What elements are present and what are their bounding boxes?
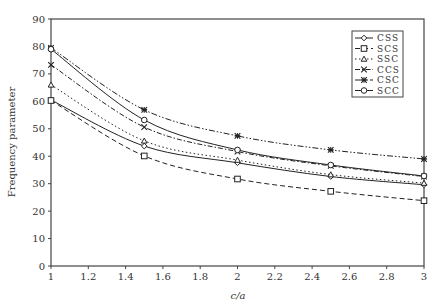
data-point-ssc xyxy=(48,82,54,87)
data-point-scs xyxy=(48,98,54,104)
data-point-ssc xyxy=(421,180,427,185)
series-css xyxy=(48,97,427,187)
x-tick-label: 1.4 xyxy=(118,271,134,282)
data-point-scc xyxy=(421,173,427,179)
legend-marker-csc xyxy=(361,77,367,83)
y-tick-label: 10 xyxy=(32,233,45,244)
x-axis-title: c/a xyxy=(231,290,246,301)
data-point-scs xyxy=(235,176,241,182)
x-tick-label: 2 xyxy=(234,271,240,282)
y-tick-label: 40 xyxy=(32,151,45,162)
legend-label-ssc: SSC xyxy=(377,54,399,64)
y-tick-label: 90 xyxy=(32,14,45,25)
data-point-ssc xyxy=(328,172,334,177)
y-tick-label: 50 xyxy=(32,123,45,134)
x-tick-label: 1 xyxy=(48,271,54,282)
data-point-scc xyxy=(48,46,54,52)
x-tick-label: 1.2 xyxy=(80,271,96,282)
legend: CSSSCSSSCCCSCSCSCC xyxy=(352,31,403,97)
chart: 11.21.41.61.822.22.42.62.830102030405060… xyxy=(0,0,447,305)
x-tick-label: 1.6 xyxy=(155,271,171,282)
data-point-scc xyxy=(235,147,241,153)
data-point-ccs xyxy=(141,124,147,130)
x-tick-label: 2.8 xyxy=(379,271,395,282)
x-tick-label: 3 xyxy=(421,271,427,282)
data-point-scc xyxy=(141,117,147,123)
x-tick-label: 1.8 xyxy=(192,271,208,282)
x-tick-label: 2.4 xyxy=(304,271,320,282)
y-tick-label: 0 xyxy=(39,261,45,272)
legend-label-csc: CSC xyxy=(377,75,400,85)
data-point-scs xyxy=(141,153,147,159)
data-point-css xyxy=(141,143,147,149)
data-point-scc xyxy=(328,162,334,168)
data-point-csc xyxy=(235,133,241,139)
y-tick-label: 70 xyxy=(32,68,45,79)
data-point-ssc xyxy=(141,138,147,143)
legend-label-scs: SCS xyxy=(377,44,399,54)
y-tick-label: 20 xyxy=(32,206,45,217)
legend-marker-scc xyxy=(361,88,367,94)
x-tick-label: 2.2 xyxy=(267,271,283,282)
legend-marker-scs xyxy=(361,46,367,52)
legend-label-scc: SCC xyxy=(377,86,400,96)
data-point-csc xyxy=(141,107,147,113)
data-point-csc xyxy=(421,156,427,162)
legend-label-ccs: CCS xyxy=(377,65,400,75)
y-tick-label: 30 xyxy=(32,178,45,189)
data-point-ssc xyxy=(235,157,241,162)
y-tick-label: 80 xyxy=(32,41,45,52)
data-point-scs xyxy=(421,198,427,204)
legend-label-css: CSS xyxy=(377,33,399,43)
data-point-csc xyxy=(328,147,334,153)
series-line-css xyxy=(51,100,424,185)
data-point-scs xyxy=(328,189,334,195)
y-tick-label: 60 xyxy=(32,96,45,107)
y-axis-title: Frequency parameter xyxy=(6,87,17,198)
x-tick-label: 2.6 xyxy=(341,271,357,282)
